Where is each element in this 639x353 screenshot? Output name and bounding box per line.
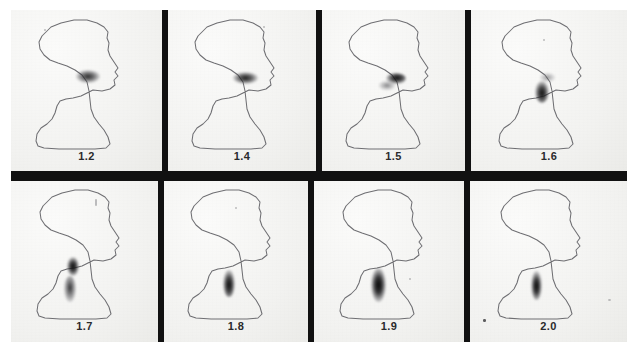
panel-label: 1.9: [314, 320, 464, 332]
film-speck: [263, 26, 265, 28]
panel-1-9[interactable]: 1.9: [314, 181, 464, 342]
film-speck: [608, 299, 611, 301]
panel-label: 1.6: [471, 150, 627, 162]
film-speck: [409, 278, 411, 280]
figure-canvas: 1.2 1.4 1.5: [0, 0, 639, 353]
film-speck: [235, 207, 237, 209]
panel-label: 1.4: [168, 150, 316, 162]
head-profile-outline-icon: [314, 181, 464, 342]
panel-1-2[interactable]: 1.2: [11, 10, 162, 171]
panel-1-4[interactable]: 1.4: [168, 10, 316, 171]
panel-label: 1.7: [11, 320, 158, 332]
head-profile-outline-icon: [11, 10, 162, 171]
head-profile-outline-icon: [11, 181, 158, 342]
panel-2-0[interactable]: 2.0: [470, 181, 627, 342]
panel-label: 2.0: [470, 320, 627, 332]
film-speck: [543, 39, 545, 41]
panel-1-8[interactable]: 1.8: [164, 181, 308, 342]
panel-label: 1.2: [11, 150, 162, 162]
panel-label: 1.8: [164, 320, 308, 332]
head-profile-outline-icon: [471, 10, 627, 171]
panel-1-6[interactable]: 1.6: [471, 10, 627, 171]
head-profile-outline-icon: [168, 10, 316, 171]
panel-1-7[interactable]: 1.7: [11, 181, 158, 342]
panel-label: 1.5: [322, 150, 465, 162]
head-profile-outline-icon: [470, 181, 627, 342]
head-profile-outline-icon: [322, 10, 465, 171]
panel-1-5[interactable]: 1.5: [322, 10, 465, 171]
film-speck: [95, 199, 97, 206]
panel-grid: 1.2 1.4 1.5: [11, 10, 627, 342]
head-profile-outline-icon: [164, 181, 308, 342]
